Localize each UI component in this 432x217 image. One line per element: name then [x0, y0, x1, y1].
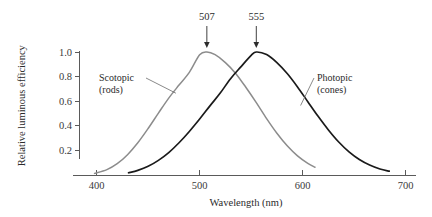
peak-annotation-group: 507555 — [199, 11, 264, 48]
curve-group — [95, 52, 390, 173]
peak-value-label: 555 — [248, 11, 264, 22]
y-tick-label: 0.6 — [59, 96, 72, 107]
x-tick-label: 600 — [295, 180, 311, 191]
x-tick-label: 700 — [398, 180, 414, 191]
photopic-label-group: Photopic (cones) — [301, 72, 354, 106]
peak-annotation-507: 507 — [199, 11, 215, 48]
y-axis-title: Relative luminous efficiency — [16, 44, 27, 166]
x-axis-ticks — [97, 170, 406, 175]
chart-canvas: 0.20.40.60.81.0 Relative luminous effici… — [0, 0, 432, 217]
scotopic-label-group: Scotopic (rods) — [99, 72, 176, 96]
y-tick-label: 0.4 — [59, 120, 73, 131]
peak-value-label: 507 — [199, 11, 215, 22]
y-tick-label: 1.0 — [59, 47, 72, 58]
y-tick-label: 0.2 — [59, 145, 72, 156]
arrow-down-icon — [254, 42, 260, 48]
y-axis-group: 0.20.40.60.81.0 Relative luminous effici… — [16, 44, 79, 166]
y-axis-ticks — [75, 52, 79, 150]
scotopic-leader-line — [146, 78, 176, 93]
arrow-down-icon — [204, 42, 210, 48]
y-axis-tick-labels: 0.20.40.60.81.0 — [59, 47, 73, 156]
x-axis-group: 400500600700 Wavelength (nm) — [73, 170, 416, 209]
photopic-curve-label-line2: (cones) — [317, 84, 346, 96]
y-tick-label: 0.8 — [59, 71, 72, 82]
x-tick-label: 400 — [89, 180, 105, 191]
luminous-efficiency-figure: 0.20.40.60.81.0 Relative luminous effici… — [0, 0, 432, 217]
x-axis-tick-labels: 400500600700 — [89, 180, 414, 191]
peak-annotation-555: 555 — [248, 11, 264, 48]
scotopic-curve-label-line1: Scotopic — [99, 72, 135, 83]
photopic-curve-label-line1: Photopic — [317, 72, 353, 83]
x-axis-title: Wavelength (nm) — [210, 197, 283, 209]
photopic-curve — [129, 52, 390, 173]
scotopic-curve-label-line2: (rods) — [99, 84, 123, 96]
x-tick-label: 500 — [192, 180, 208, 191]
